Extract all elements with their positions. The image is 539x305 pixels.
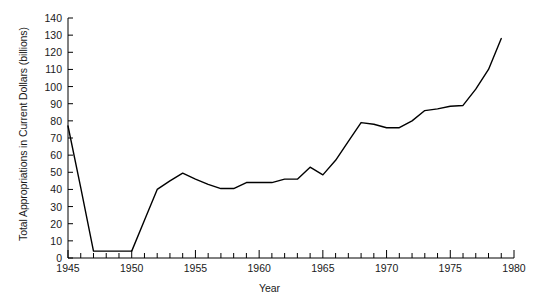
- y-tick-label: 70: [30, 133, 62, 143]
- x-axis-title: Year: [0, 282, 539, 294]
- y-tick-label: 100: [30, 82, 62, 92]
- y-tick-label: 110: [30, 64, 62, 74]
- y-tick-label: 50: [30, 167, 62, 177]
- x-tick-label: 1955: [175, 262, 215, 274]
- axis-tick-marks: [68, 18, 514, 258]
- x-tick-label: 1945: [48, 262, 88, 274]
- y-tick-label: 80: [30, 116, 62, 126]
- y-tick-label: 10: [30, 236, 62, 246]
- y-tick-label: 30: [30, 202, 62, 212]
- y-tick-label: 120: [30, 47, 62, 57]
- x-tick-label: 1950: [112, 262, 152, 274]
- y-tick-label: 140: [30, 13, 62, 23]
- x-tick-label: 1965: [303, 262, 343, 274]
- x-tick-label: 1970: [367, 262, 407, 274]
- y-tick-label: 60: [30, 150, 62, 160]
- y-tick-label: 20: [30, 219, 62, 229]
- axis-lines: [68, 18, 514, 258]
- y-tick-label: 40: [30, 184, 62, 194]
- chart-figure: Total Appropriations in Current Dollars …: [0, 0, 539, 305]
- y-tick-label: 90: [30, 99, 62, 109]
- data-series-line: [68, 39, 501, 252]
- x-tick-label: 1975: [430, 262, 470, 274]
- y-tick-label: 130: [30, 30, 62, 40]
- x-tick-label: 1980: [494, 262, 534, 274]
- x-tick-label: 1960: [239, 262, 279, 274]
- plot-area: [0, 0, 539, 305]
